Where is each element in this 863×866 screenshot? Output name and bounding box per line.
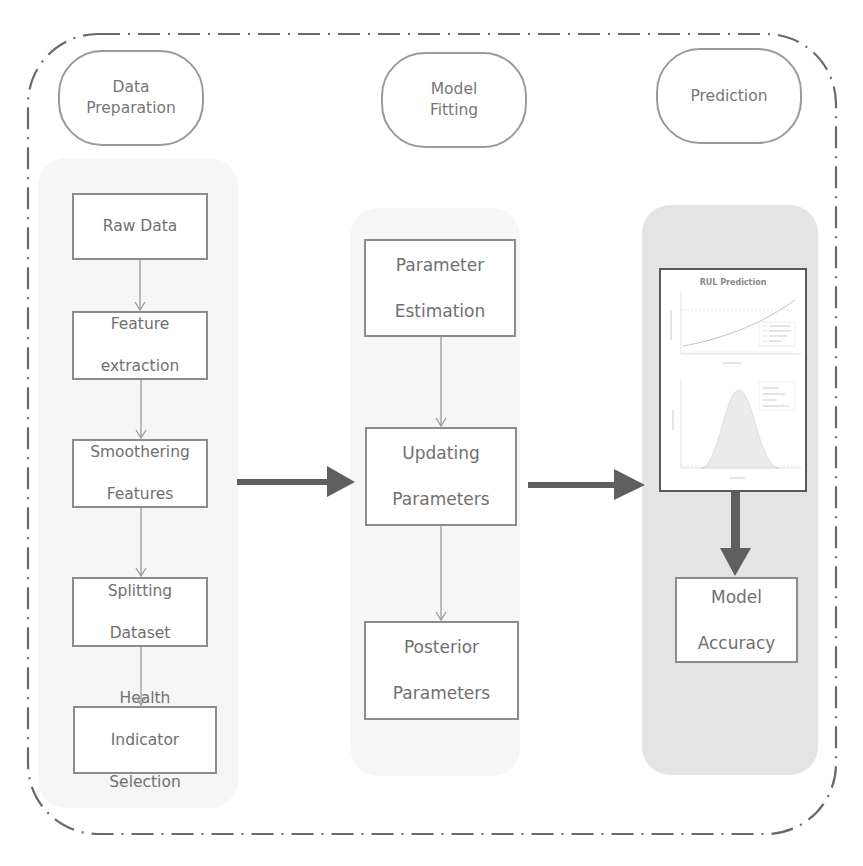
step-label-line2: extraction	[101, 356, 180, 377]
step-posterior-parameters: Posterior Parameters	[364, 621, 519, 720]
phase-model-fitting: Model Fitting	[381, 52, 527, 148]
phase-prediction: Prediction	[656, 48, 802, 144]
top-subplot	[671, 292, 801, 363]
bottom-subplot	[673, 380, 801, 478]
step-label-line2: Dataset	[108, 623, 172, 644]
step-splitting-dataset: Splitting Dataset	[72, 577, 208, 647]
step-label-line3: Selection	[109, 772, 180, 793]
step-label-line1: Model	[698, 586, 776, 609]
step-feature-extraction: Feature extraction	[72, 311, 208, 380]
phase-label-line2: Preparation	[86, 98, 176, 119]
step-label-line1: Splitting	[108, 581, 172, 602]
step-label-line2: Parameters	[392, 488, 489, 511]
phase-label-line1: Model	[430, 79, 478, 100]
phase-data-preparation: Data Preparation	[58, 50, 204, 146]
phase-label: Prediction	[690, 86, 767, 107]
step-label-line1: Parameter	[395, 254, 486, 277]
step-label: Raw Data	[103, 216, 178, 237]
step-label-line1: Updating	[392, 442, 489, 465]
step-label-line2: Parameters	[393, 682, 490, 705]
step-updating-parameters: Updating Parameters	[365, 427, 517, 526]
step-parameter-estimation: Parameter Estimation	[364, 239, 516, 337]
rul-prediction-thumbnail: RUL Prediction	[659, 268, 807, 492]
step-label-line2: Accuracy	[698, 632, 776, 655]
step-label-line2: Estimation	[395, 300, 486, 323]
step-label-line1: Health	[109, 688, 180, 709]
phase-label-line1: Data	[86, 77, 176, 98]
step-label-line2: Indicator	[109, 730, 180, 751]
step-label-line1: Smoothering	[90, 442, 190, 463]
step-label-line1: Feature	[101, 314, 180, 335]
step-label-line1: Posterior	[393, 636, 490, 659]
step-model-accuracy: Model Accuracy	[675, 577, 798, 663]
step-health-indicator-selection: Health Indicator Selection	[73, 706, 217, 774]
step-raw-data: Raw Data	[72, 193, 208, 260]
phase-label-line2: Fitting	[430, 100, 478, 121]
step-smoothering-features: Smoothering Features	[72, 439, 208, 508]
step-label-line2: Features	[90, 484, 190, 505]
rul-plots	[661, 270, 807, 492]
